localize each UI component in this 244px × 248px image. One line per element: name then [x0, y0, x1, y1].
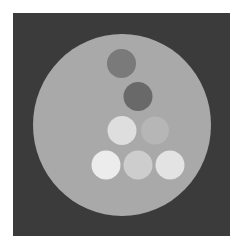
insert-middle-left — [108, 116, 137, 145]
insert-bottom-right — [156, 151, 185, 180]
insert-top — [107, 49, 136, 78]
insert-bottom-left — [92, 151, 121, 180]
insert-bottom-middle — [124, 151, 153, 180]
insert-second — [124, 82, 153, 111]
insert-middle-right — [141, 117, 169, 145]
phantom-image — [0, 0, 244, 248]
